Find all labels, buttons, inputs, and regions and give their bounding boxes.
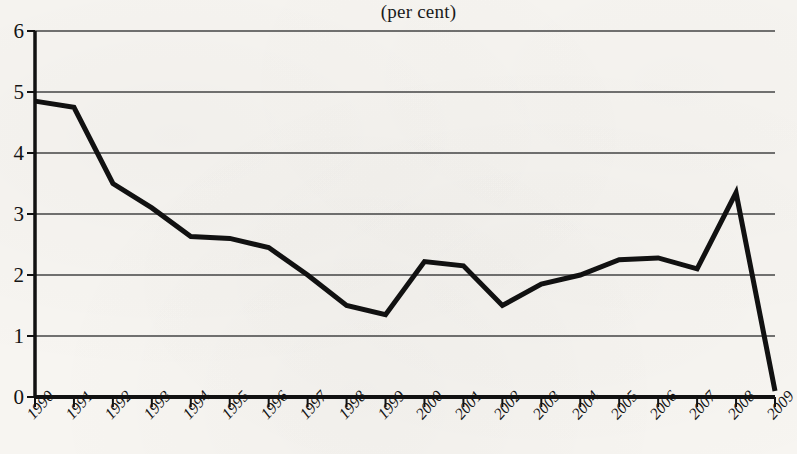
y-axis-tick-label: 3 bbox=[2, 202, 24, 227]
y-axis-tick-label: 2 bbox=[2, 263, 24, 288]
line-chart-plot bbox=[0, 0, 797, 454]
y-axis-tick-label: 0 bbox=[2, 385, 24, 410]
chart-page: (per cent) 0123456 199019911992199319941… bbox=[0, 0, 797, 454]
y-axis-tick-label: 1 bbox=[2, 324, 24, 349]
gridlines bbox=[35, 31, 775, 397]
data-series-line bbox=[35, 101, 775, 391]
y-axis-tick-label: 5 bbox=[2, 80, 24, 105]
y-axis-tick-label: 6 bbox=[2, 19, 24, 44]
y-axis-tick-label: 4 bbox=[2, 141, 24, 166]
